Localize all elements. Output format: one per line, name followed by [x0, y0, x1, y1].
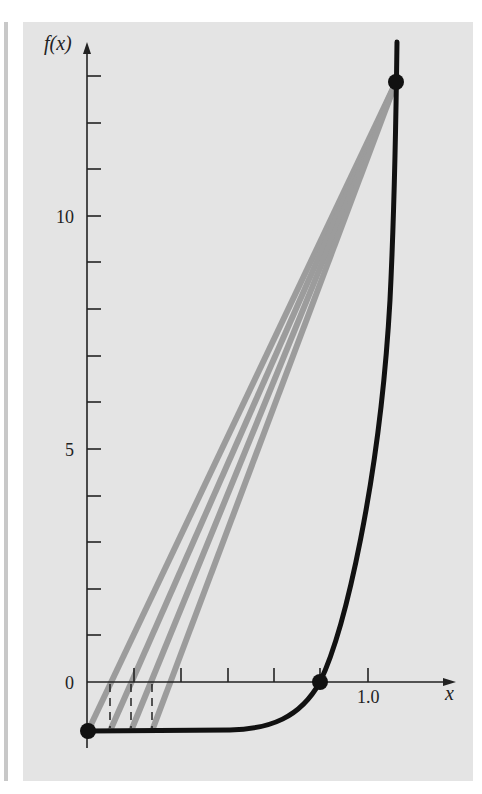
x-axis: [87, 668, 445, 682]
x-axis-label: x: [444, 682, 454, 704]
secant-lines: [88, 82, 396, 731]
chart-plot: f(x) 10 5 0 1.0 x: [0, 0, 482, 794]
y-axis: [87, 52, 101, 748]
point-upper-bound: [388, 74, 404, 90]
x-tick-label-1: 1.0: [357, 687, 380, 707]
point-lower-bound: [80, 723, 96, 739]
y-tick-label-0: 0: [65, 673, 74, 693]
y-tick-label-10: 10: [56, 207, 74, 227]
y-tick-label-5: 5: [65, 440, 74, 460]
y-axis-label: f(x): [44, 32, 72, 55]
point-root: [312, 674, 328, 690]
y-axis-arrow-icon: [83, 42, 91, 54]
